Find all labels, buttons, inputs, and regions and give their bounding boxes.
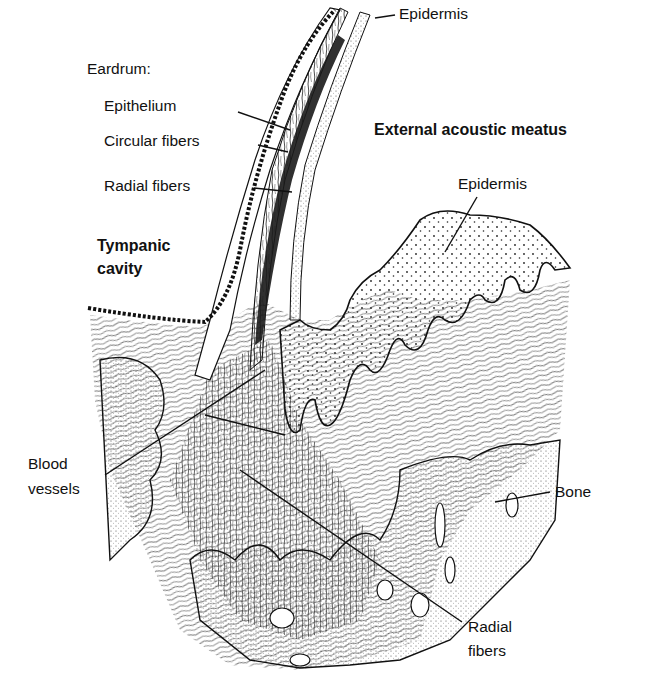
label-blood-vessels-2: vessels [28,480,80,498]
label-tympanic-cavity-1: Tympanic [97,237,171,255]
anatomy-drawing [0,0,646,695]
label-epidermis-top: Epidermis [399,5,468,23]
label-radial-fibers-bottom-1: Radial [468,618,512,636]
label-epidermis-right: Epidermis [458,175,527,193]
label-eardrum: Eardrum: [87,60,151,78]
label-blood-vessels-1: Blood [28,455,68,473]
label-tympanic-cavity-2: cavity [97,260,142,278]
label-external-acoustic-meatus: External acoustic meatus [374,121,567,139]
label-circular-fibers: Circular fibers [104,132,200,150]
label-radial-fibers-bottom-2: fibers [468,642,506,660]
label-bone: Bone [555,483,591,501]
label-radial-fibers-eardrum: Radial fibers [104,177,190,195]
label-epithelium: Epithelium [104,97,176,115]
